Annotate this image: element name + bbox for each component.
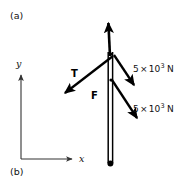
force-application-node-mid bbox=[109, 78, 112, 81]
panel-label-a: (a) bbox=[10, 10, 23, 21]
pole-mast bbox=[107, 52, 113, 167]
force-magnitude-label-upper: 5×103N bbox=[133, 64, 174, 74]
force-upper-base: 10 bbox=[149, 64, 161, 74]
force-upper-times: × bbox=[139, 64, 149, 74]
force-magnitude-label-lower: 5×103N bbox=[133, 104, 174, 114]
x-axis-label: x bbox=[79, 153, 84, 164]
force-application-node-top bbox=[109, 52, 112, 55]
coordinate-axes bbox=[21, 75, 72, 159]
tension-vector-label: T bbox=[71, 68, 78, 79]
figure-canvas: (a) (b) y x T F 5×103N 5×103N bbox=[0, 0, 189, 188]
force-lower-times: × bbox=[139, 104, 149, 114]
panel-label-b: (b) bbox=[10, 166, 23, 177]
force-upper-unit: N bbox=[165, 64, 174, 74]
force-upper-arrow-shaft bbox=[114, 55, 134, 85]
resultant-vector-label: F bbox=[91, 90, 98, 101]
y-axis-label: y bbox=[16, 58, 21, 69]
vector-force-upper bbox=[114, 55, 134, 85]
force-lower-base: 10 bbox=[149, 104, 161, 114]
force-lower-unit: N bbox=[165, 104, 174, 114]
vector-resultant-up bbox=[108, 23, 110, 56]
pole-base-pivot bbox=[107, 161, 113, 167]
resultant-arrow-shaft bbox=[108, 23, 110, 56]
